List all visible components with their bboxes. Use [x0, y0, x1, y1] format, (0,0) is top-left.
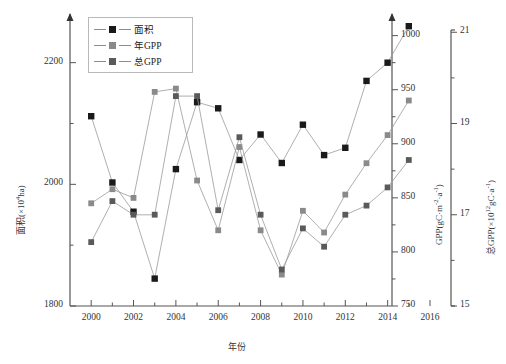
- y-left-tick-label: 2200: [44, 56, 63, 66]
- x-axis-label: 年份: [228, 340, 246, 353]
- y-left-tick-label: 1800: [44, 299, 63, 309]
- data-point-0-14: [384, 60, 390, 66]
- data-point-1-15: [406, 98, 412, 104]
- data-point-0-11: [321, 152, 327, 158]
- data-point-0-13: [363, 78, 369, 84]
- legend-label-gpp-year: 年GPP: [134, 38, 161, 52]
- data-point-2-13: [364, 203, 370, 209]
- axis-arrow: [67, 13, 74, 21]
- series-line-2: [91, 96, 409, 269]
- legend-item-gpp-total: 总GPP: [94, 53, 187, 69]
- x-tick-label: 2000: [82, 312, 101, 322]
- data-point-0-4: [173, 166, 179, 172]
- legend-line-area: [94, 29, 106, 30]
- y-right1-tick-label: 1000: [401, 29, 420, 39]
- data-point-1-11: [321, 230, 327, 236]
- data-point-1-10: [300, 208, 306, 214]
- y-right2-tick-label: 21: [460, 25, 470, 35]
- y-right1-tick-label: 750: [401, 299, 415, 309]
- data-point-1-3: [152, 89, 158, 95]
- data-point-0-7: [236, 157, 242, 163]
- data-point-1-13: [364, 160, 370, 166]
- data-point-2-5: [194, 93, 200, 99]
- data-point-1-12: [342, 192, 348, 198]
- data-point-0-12: [342, 145, 348, 151]
- legend-label-gpp-total: 总GPP: [134, 54, 161, 68]
- data-point-2-4: [173, 93, 179, 99]
- x-tick-label: 2006: [209, 312, 228, 322]
- data-point-2-14: [385, 185, 391, 191]
- y-axis-right1-label: GPP(gC·m-2·a-1): [432, 184, 444, 245]
- legend-item-area: 面积: [94, 21, 187, 37]
- data-point-1-4: [173, 86, 179, 92]
- x-tick-label: 2012: [336, 312, 355, 322]
- legend-line-gpp-total-2: [119, 61, 131, 62]
- x-tick-label: 2016: [421, 312, 440, 322]
- legend-line-area-2: [119, 29, 131, 30]
- data-point-2-10: [300, 226, 306, 232]
- data-point-0-1: [109, 179, 115, 185]
- data-point-0-3: [152, 275, 158, 281]
- data-point-0-5: [194, 99, 200, 105]
- y-axis-right2-label: 总GPP(×1012gC·a-1): [484, 180, 497, 255]
- data-point-2-3: [152, 212, 158, 218]
- data-point-0-0: [88, 113, 94, 119]
- data-point-2-12: [342, 212, 348, 218]
- y-right1-tick-label: 950: [401, 83, 415, 93]
- data-point-2-7: [237, 134, 243, 140]
- y-right1-tick-label: 800: [401, 245, 415, 255]
- y-right2-tick-label: 19: [460, 117, 470, 127]
- data-point-2-0: [88, 239, 94, 245]
- x-tick-label: 2014: [378, 312, 397, 322]
- data-point-1-6: [215, 227, 221, 233]
- data-point-0-6: [215, 105, 221, 111]
- series-line-1: [91, 89, 409, 275]
- legend-line-gpp-total: [94, 61, 106, 62]
- chart-legend: 面积 年GPP 总GPP: [88, 17, 193, 73]
- y-axis-left-label: 面积(×104ha): [14, 185, 27, 235]
- data-point-2-11: [321, 244, 327, 250]
- data-point-2-8: [258, 212, 264, 218]
- y-right2-tick-label: 15: [460, 299, 470, 309]
- data-point-1-0: [88, 200, 94, 206]
- y-right1-tick-label: 900: [401, 137, 415, 147]
- data-point-1-1: [110, 186, 116, 192]
- data-point-2-15: [406, 157, 412, 163]
- legend-item-gpp-year: 年GPP: [94, 37, 187, 53]
- legend-marker-area: [109, 26, 116, 33]
- y-left-tick-label: 2000: [44, 177, 63, 187]
- chart-figure: 面积 年GPP 总GPP 200020022004200620082010201…: [0, 0, 506, 364]
- y-right1-tick-label: 850: [401, 191, 415, 201]
- data-point-0-8: [257, 131, 263, 137]
- data-point-1-5: [194, 178, 200, 184]
- data-point-2-6: [215, 207, 221, 213]
- data-point-0-10: [300, 122, 306, 128]
- x-tick-label: 2002: [124, 312, 143, 322]
- x-tick-label: 2004: [166, 312, 185, 322]
- data-point-1-9: [279, 272, 285, 278]
- data-point-2-9: [279, 267, 285, 273]
- data-point-1-8: [258, 227, 264, 233]
- plot-canvas: [0, 0, 506, 364]
- data-point-1-2: [131, 195, 137, 201]
- legend-marker-gpp-total: [109, 58, 116, 65]
- data-point-1-14: [385, 132, 391, 138]
- axis-arrow: [389, 13, 396, 21]
- data-point-2-2: [131, 212, 137, 218]
- legend-label-area: 面积: [134, 22, 154, 36]
- y-right2-tick-label: 17: [460, 208, 470, 218]
- legend-line-gpp-year: [94, 45, 106, 46]
- x-tick-label: 2008: [251, 312, 270, 322]
- data-point-0-9: [279, 160, 285, 166]
- data-point-2-1: [110, 198, 116, 204]
- legend-marker-gpp-year: [109, 42, 116, 49]
- x-tick-label: 2010: [293, 312, 312, 322]
- legend-line-gpp-year-2: [119, 45, 131, 46]
